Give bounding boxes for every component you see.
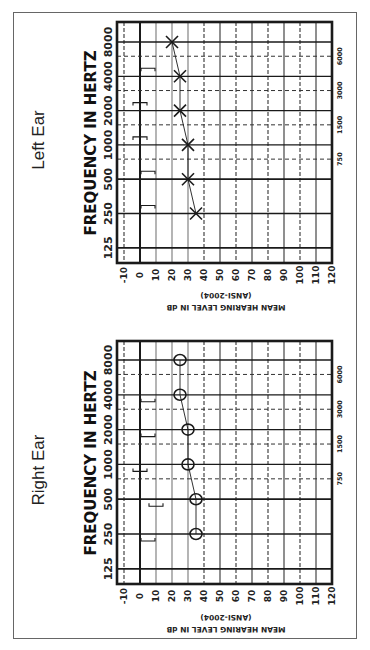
bone-conduction-bracket-icon [141, 68, 155, 71]
db-tick-label: 100 [295, 266, 305, 285]
hearing-data [133, 355, 202, 542]
db-tick-label: 120 [327, 266, 337, 285]
frequency-axis-title: FREQUENCY IN HERTZ [82, 50, 100, 235]
db-tick-label: 70 [247, 269, 257, 282]
db-axis-subtitle: (ANSI-2004) [200, 291, 251, 300]
frequency-tick-label: 1000 [102, 449, 115, 480]
db-tick-label: -10 [119, 588, 129, 604]
frequency-tick-label: 1000 [102, 129, 115, 160]
audiogram-grid [117, 341, 332, 584]
audiogram-grid [117, 22, 332, 263]
interoctave-tick-label: 750 [336, 152, 344, 166]
frequency-tick-label: 8000 [102, 344, 115, 375]
frequency-tick-label: 2000 [102, 414, 115, 445]
axis-ticks: -100102030405060708090100110120125250500… [102, 344, 344, 605]
frequency-tick-label: 500 [102, 167, 115, 190]
interoctave-tick-label: 750 [336, 472, 344, 486]
frequency-axis-title: FREQUENCY IN HERTZ [82, 370, 100, 555]
db-tick-label: 90 [279, 269, 289, 282]
frequency-tick-label: 2000 [102, 95, 115, 126]
db-tick-label: 30 [183, 590, 193, 603]
frequency-tick-label: 4000 [102, 379, 115, 410]
db-tick-label: -10 [119, 267, 129, 283]
db-tick-label: 0 [135, 593, 145, 599]
frequency-tick-label: 125 [102, 557, 115, 580]
frequency-tick-label: 500 [102, 487, 115, 510]
frequency-tick-label: 8000 [102, 26, 115, 57]
air-conduction-line [172, 42, 196, 214]
interoctave-tick-label: 1500 [336, 115, 344, 134]
right-ear-panel: Right Ear FREQUENCY IN HERTZ -1001020304… [29, 341, 344, 634]
interoctave-tick-label: 6000 [336, 47, 344, 66]
db-tick-label: 80 [263, 590, 273, 603]
db-tick-label: 70 [247, 590, 257, 603]
db-tick-label: 20 [167, 269, 177, 282]
interoctave-tick-label: 3000 [336, 81, 344, 100]
frequency-tick-label: 125 [102, 236, 115, 259]
db-tick-label: 120 [327, 587, 337, 606]
bone-conduction-bracket-icon [141, 538, 155, 541]
db-tick-label: 50 [215, 269, 225, 282]
db-tick-label: 0 [135, 272, 145, 278]
db-tick-label: 40 [199, 590, 209, 603]
db-tick-label: 80 [263, 269, 273, 282]
db-tick-label: 90 [279, 590, 289, 603]
db-tick-label: 30 [183, 269, 193, 282]
db-tick-label: 50 [215, 590, 225, 603]
db-tick-label: 40 [199, 269, 209, 282]
db-tick-label: 100 [295, 587, 305, 606]
bone-conduction-bracket-icon [141, 171, 155, 174]
db-tick-label: 110 [311, 587, 321, 606]
left-ear-title: Left Ear [29, 110, 48, 170]
db-axis-title: MEAN HEARING LEVEL IN dB [166, 303, 285, 312]
frequency-tick-label: 250 [102, 202, 115, 225]
db-tick-label: 110 [311, 266, 321, 285]
bone-conduction-bracket-icon [141, 206, 155, 209]
db-axis-title: MEAN HEARING LEVEL IN dB [166, 625, 285, 634]
db-tick-label: 60 [231, 590, 241, 603]
db-tick-label: 10 [151, 590, 161, 603]
audiogram-chart: Left Ear FREQUENCY IN HERTZ -10010203040… [0, 0, 370, 650]
interoctave-tick-label: 6000 [336, 365, 344, 384]
axis-ticks: -100102030405060708090100110120125250500… [102, 26, 344, 284]
bone-conduction-bracket-icon [141, 399, 155, 402]
frequency-tick-label: 4000 [102, 61, 115, 92]
db-tick-label: 10 [151, 269, 161, 282]
frequency-tick-label: 250 [102, 522, 115, 545]
db-axis-subtitle: (ANSI-2004) [200, 613, 251, 622]
left-ear-panel: Left Ear FREQUENCY IN HERTZ -10010203040… [29, 22, 344, 312]
db-tick-label: 20 [167, 590, 177, 603]
interoctave-tick-label: 3000 [336, 400, 344, 419]
db-tick-label: 60 [231, 269, 241, 282]
right-ear-title: Right Ear [29, 434, 48, 505]
bone-conduction-bracket-icon [141, 434, 155, 437]
hearing-data [133, 36, 202, 220]
interoctave-tick-label: 1500 [336, 435, 344, 454]
